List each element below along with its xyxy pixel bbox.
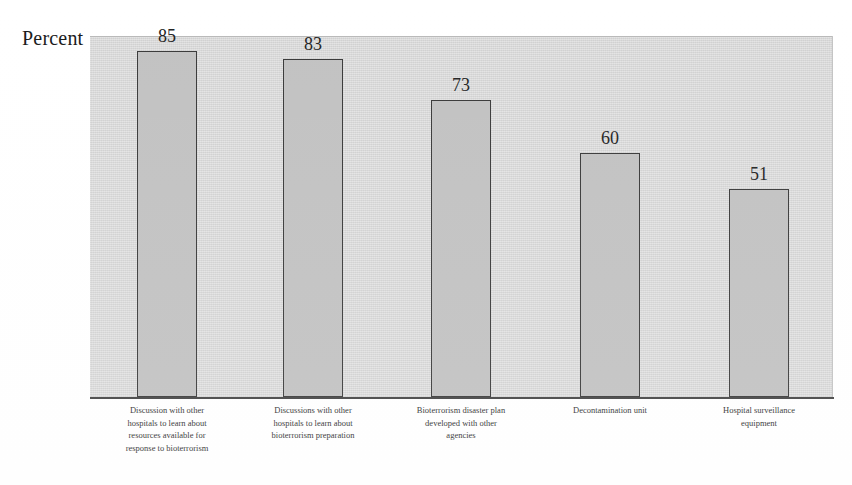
bar-value-label: 51 xyxy=(719,164,799,185)
x-axis-category-label: Discussions with otherhospitals to learn… xyxy=(239,404,387,442)
bar xyxy=(580,153,640,397)
x-axis-category-label: Bioterrorism disaster plandeveloped with… xyxy=(387,404,535,442)
y-axis-title: Percent xyxy=(22,27,83,50)
bar-value-label: 73 xyxy=(421,75,501,96)
bar xyxy=(431,100,491,397)
x-axis-category-label: Decontamination unit xyxy=(536,404,684,417)
bar xyxy=(729,189,789,397)
bar-value-label: 85 xyxy=(127,26,207,47)
x-axis-category-label: Discussion with otherhospitals to learn … xyxy=(93,404,241,454)
bar xyxy=(137,51,197,397)
plot-right-border xyxy=(832,36,833,398)
x-axis-line xyxy=(90,397,834,399)
bar-value-label: 83 xyxy=(273,34,353,55)
x-axis-category-label: Hospital surveillanceequipment xyxy=(685,404,833,429)
bar xyxy=(283,59,343,397)
bar-value-label: 60 xyxy=(570,128,650,149)
bar-chart-figure: Percent 8583736051 Discussion with other… xyxy=(0,0,852,485)
